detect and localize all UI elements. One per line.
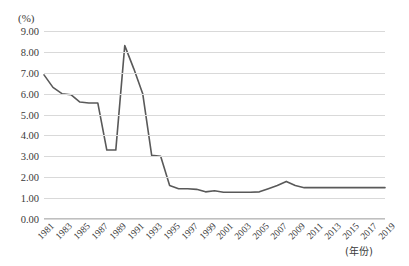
y-axis-tick-label: 1.00 bbox=[21, 193, 39, 204]
x-axis-tick-label: 1997 bbox=[179, 221, 200, 242]
gridline bbox=[44, 94, 385, 95]
y-axis-tick-label: 5.00 bbox=[21, 109, 39, 120]
gridline bbox=[44, 115, 385, 116]
x-axis-tick-label: 1983 bbox=[54, 221, 75, 242]
y-axis-tick-label: 8.00 bbox=[21, 46, 39, 57]
line-chart: (%) 9.008.007.006.005.004.003.002.001.00… bbox=[0, 0, 409, 266]
y-axis-tick-label: 3.00 bbox=[21, 151, 39, 162]
x-axis-tick-label: 1995 bbox=[161, 221, 182, 242]
gridline bbox=[44, 73, 385, 74]
y-axis-tick-label: 6.00 bbox=[21, 88, 39, 99]
x-axis-tick-label: 2003 bbox=[233, 221, 254, 242]
y-axis-tick-label: 9.00 bbox=[21, 26, 39, 37]
x-axis-tick-label: 1989 bbox=[107, 221, 128, 242]
x-axis-tick-label: 2005 bbox=[251, 221, 272, 242]
gridline bbox=[44, 177, 385, 178]
x-axis-tick-label: 1991 bbox=[125, 221, 146, 242]
gridline bbox=[44, 198, 385, 199]
x-axis-tick-label: 1999 bbox=[197, 221, 218, 242]
y-axis-unit-label: (%) bbox=[18, 12, 35, 24]
x-axis-tick-label: 1985 bbox=[71, 221, 92, 242]
x-axis-tick-label: 2001 bbox=[215, 221, 236, 242]
y-axis-tick-label: 2.00 bbox=[21, 172, 39, 183]
x-axis-tick-label: 2009 bbox=[287, 221, 308, 242]
series-polyline bbox=[44, 46, 385, 193]
gridline bbox=[44, 219, 385, 220]
y-axis-tick-label: 7.00 bbox=[21, 67, 39, 78]
x-axis-tick-label: 2013 bbox=[323, 221, 344, 242]
gridline bbox=[44, 135, 385, 136]
data-series-line bbox=[44, 31, 385, 219]
x-axis-tick-label: 1987 bbox=[89, 221, 110, 242]
y-axis-tick-label: 4.00 bbox=[21, 130, 39, 141]
x-axis-tick-label: 2015 bbox=[341, 221, 362, 242]
y-axis-tick-label: 0.00 bbox=[21, 214, 39, 225]
x-axis-tick-label: 2011 bbox=[305, 221, 325, 241]
x-axis-title: (年份) bbox=[345, 243, 373, 258]
gridline bbox=[44, 156, 385, 157]
gridline bbox=[44, 52, 385, 53]
x-axis-tick-labels: 1981198319851987198919911993199519971999… bbox=[44, 221, 385, 266]
x-axis-tick-label: 2019 bbox=[377, 221, 398, 242]
x-axis-tick-label: 2017 bbox=[359, 221, 380, 242]
x-axis-tick-label: 2007 bbox=[269, 221, 290, 242]
gridline bbox=[44, 31, 385, 32]
plot-area: 9.008.007.006.005.004.003.002.001.000.00 bbox=[44, 31, 385, 219]
x-axis-tick-label: 1993 bbox=[143, 221, 164, 242]
